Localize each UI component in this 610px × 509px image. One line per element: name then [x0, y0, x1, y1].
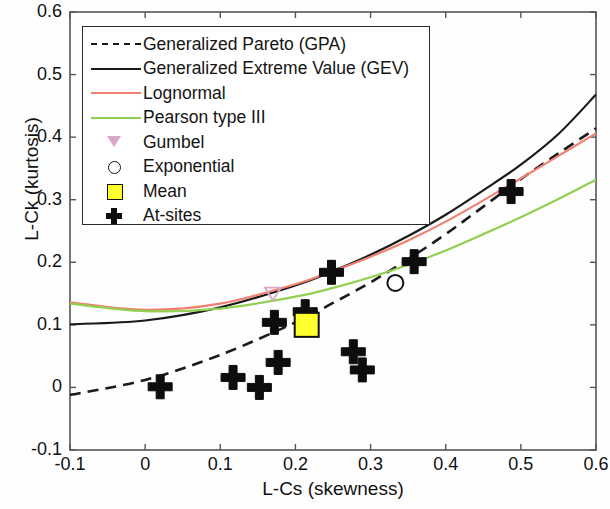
- at-site-marker: [262, 310, 286, 334]
- circle-icon: [89, 156, 143, 178]
- x-tick-label: 0.1: [190, 454, 250, 475]
- y-tick-label: 0: [6, 376, 62, 397]
- y-tick-label: 0.5: [6, 64, 62, 85]
- y-tick-label: -0.1: [6, 439, 62, 460]
- solid-line-salmon-icon: [89, 82, 143, 104]
- triangle-down-icon: [89, 131, 143, 153]
- y-tick-label: 0.6: [6, 1, 62, 22]
- exponential-marker: [387, 275, 403, 291]
- y-tick-label: 0.4: [6, 126, 62, 147]
- at-site-marker: [221, 365, 245, 389]
- at-site-marker: [266, 350, 290, 374]
- l-moment-ratio-diagram: L-Ck (kurtosis) L-Cs (skewness) -0.100.1…: [0, 0, 610, 509]
- x-tick-label: 0.3: [341, 454, 401, 475]
- legend-label: Pearson type III: [143, 109, 266, 127]
- x-tick-label: 0.5: [491, 454, 551, 475]
- legend-item-gev: Generalized Extreme Value (GEV): [83, 57, 429, 82]
- legend-label: Generalized Extreme Value (GEV): [143, 60, 409, 78]
- plus-marker-icon: [89, 205, 143, 227]
- legend-item-exponential: Exponential: [83, 155, 429, 180]
- y-axis-label: L-Ck (kurtosis): [21, 89, 43, 269]
- legend: Generalized Pareto (GPA) Generalized Ext…: [82, 26, 430, 225]
- legend-item-gpa: Generalized Pareto (GPA): [83, 32, 429, 57]
- y-tick-label: 0.3: [6, 189, 62, 210]
- at-site-marker: [499, 180, 523, 204]
- dashed-line-icon: [89, 33, 143, 55]
- legend-label: Lognormal: [143, 85, 226, 103]
- x-tick-label: 0.2: [265, 454, 325, 475]
- at-site-marker: [247, 375, 271, 399]
- x-axis-label: L-Cs (skewness): [70, 478, 596, 500]
- legend-item-lognormal: Lognormal: [83, 81, 429, 106]
- legend-item-mean: Mean: [83, 179, 429, 204]
- legend-item-at-sites: At-sites: [83, 204, 429, 229]
- legend-item-gumbel: Gumbel: [83, 130, 429, 155]
- yellow-square-icon: [89, 180, 143, 202]
- at-site-marker: [402, 250, 426, 274]
- at-site-marker: [319, 260, 343, 284]
- x-tick-label: 0: [115, 454, 175, 475]
- legend-label: Generalized Pareto (GPA): [143, 36, 346, 54]
- legend-label: At-sites: [143, 207, 201, 225]
- legend-label: Mean: [143, 183, 187, 201]
- legend-label: Exponential: [143, 158, 234, 176]
- x-tick-label: 0.6: [566, 454, 610, 475]
- solid-line-icon: [89, 58, 143, 80]
- at-site-marker: [148, 375, 172, 399]
- legend-label: Gumbel: [143, 134, 204, 152]
- mean-marker: [295, 313, 319, 337]
- x-tick-label: 0.4: [416, 454, 476, 475]
- solid-line-green-icon: [89, 107, 143, 129]
- y-tick-label: 0.1: [6, 314, 62, 335]
- y-tick-label: 0.2: [6, 251, 62, 272]
- legend-item-pearson3: Pearson type III: [83, 106, 429, 131]
